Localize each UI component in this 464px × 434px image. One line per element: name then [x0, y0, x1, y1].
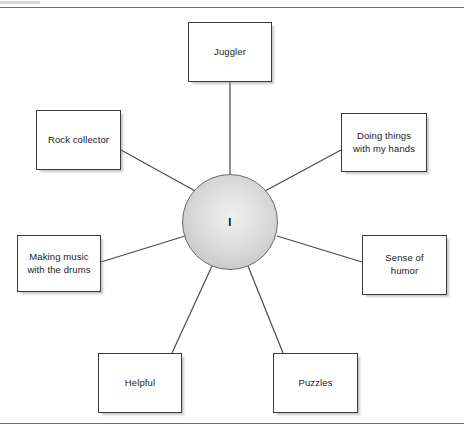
- node-box-rock-collector[interactable]: Rock collector: [36, 110, 121, 170]
- node-label-rock-collector: Rock collector: [48, 134, 109, 147]
- node-box-helpful[interactable]: Helpful: [98, 353, 182, 413]
- node-box-puzzles[interactable]: Puzzles: [273, 353, 358, 413]
- hub-circle-self[interactable]: I: [182, 174, 278, 270]
- node-label-sense-of-humor: Sense of humor: [385, 252, 423, 278]
- connector-line-making-music: [101, 236, 185, 262]
- node-label-doing-things: Doing things with my hands: [353, 130, 415, 156]
- hub-label: I: [228, 216, 232, 228]
- diagram-page: JugglerRock collectorDoing things with m…: [0, 0, 464, 434]
- node-label-making-music: Making music with the drums: [27, 251, 90, 277]
- node-label-helpful: Helpful: [125, 377, 155, 390]
- node-label-juggler: Juggler: [214, 46, 246, 59]
- node-box-making-music[interactable]: Making music with the drums: [17, 235, 101, 292]
- node-box-sense-of-humor[interactable]: Sense of humor: [362, 235, 447, 295]
- connector-line-rock-collector: [121, 150, 197, 192]
- connector-line-puzzles: [248, 266, 283, 353]
- connector-line-sense-of-humor: [277, 236, 362, 262]
- node-box-doing-things[interactable]: Doing things with my hands: [341, 113, 427, 172]
- node-label-puzzles: Puzzles: [299, 377, 333, 390]
- connector-line-doing-things: [265, 150, 341, 191]
- node-box-juggler[interactable]: Juggler: [188, 22, 272, 82]
- connector-line-helpful: [172, 266, 212, 353]
